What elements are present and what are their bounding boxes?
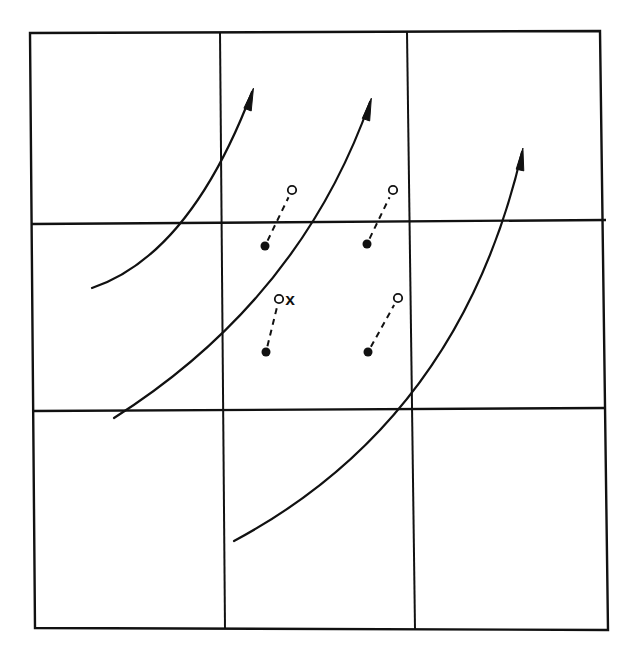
- diagram-canvas: x: [0, 0, 635, 667]
- flow-curve-1: [92, 92, 252, 288]
- open-circle-icon: [389, 186, 397, 194]
- flow-curve-3: [234, 152, 522, 541]
- open-circle-icon: [288, 186, 296, 194]
- grid-horizontal-line-1: [32, 220, 606, 224]
- displacement-pair-4: [364, 294, 403, 357]
- displacement-pairs: x: [261, 186, 403, 357]
- flow-curve-2: [114, 102, 370, 418]
- grid: [30, 31, 608, 630]
- filled-dot-icon: [363, 240, 372, 249]
- grid-horizontal-line-2: [32, 408, 606, 411]
- dashed-connector: [370, 197, 390, 238]
- grid-vertical-line-2: [407, 32, 415, 629]
- filled-dot-icon: [364, 348, 373, 357]
- point-label: x: [285, 291, 295, 310]
- filled-dot-icon: [262, 348, 271, 357]
- arrowhead-icon: [244, 88, 254, 111]
- dashed-connector: [371, 305, 394, 347]
- flow-curves: [92, 88, 524, 541]
- outer-border: [30, 31, 608, 630]
- arrowhead-icon: [516, 148, 524, 171]
- arrowhead-icon: [362, 98, 371, 121]
- displacement-pair-3: x: [262, 291, 296, 357]
- displacement-pair-1: [261, 186, 297, 251]
- dashed-connector: [267, 307, 277, 346]
- open-circle-icon: [275, 295, 283, 303]
- dashed-connector: [268, 197, 289, 240]
- displacement-pair-2: [363, 186, 398, 249]
- filled-dot-icon: [261, 242, 270, 251]
- open-circle-icon: [394, 294, 402, 302]
